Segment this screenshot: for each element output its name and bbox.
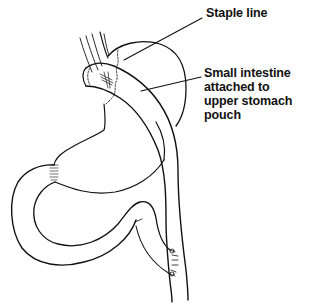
leader-lines (124, 18, 202, 91)
small-intestine-leader (141, 77, 201, 91)
label-line: Staple line (206, 6, 267, 20)
label-line: Small intestine (204, 66, 292, 80)
label-line: upper stomach (204, 94, 292, 108)
gastric-bypass-diagram: Staple line Small intestine attached to … (0, 0, 316, 308)
anatomy-illustration (0, 0, 316, 308)
small-intestine-label: Small intestine attached to upper stomac… (204, 66, 292, 122)
duodenum-loop (12, 165, 170, 274)
staple-line-leader (124, 18, 202, 60)
esophagus (80, 32, 109, 72)
label-line: pouch (204, 108, 292, 122)
small-intestine-limb (83, 63, 188, 302)
lower-stomach (50, 104, 165, 193)
label-line: attached to (204, 80, 292, 94)
staple-line-label: Staple line (206, 6, 267, 20)
